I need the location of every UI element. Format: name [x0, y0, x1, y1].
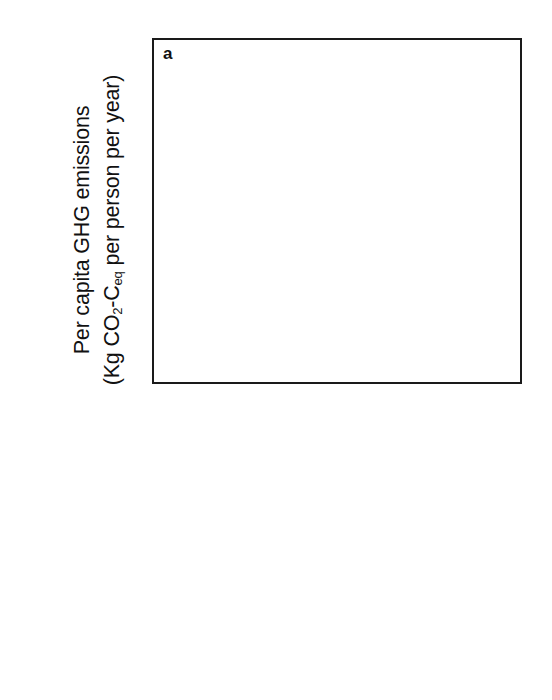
stacked-bar-chart-figure: Per capita GHG emissions (Kg CO2-Ceq per…: [0, 0, 552, 700]
y-axis-tick-labels: [96, 0, 148, 700]
panel-label: a: [163, 44, 172, 64]
plot-area: [152, 38, 522, 384]
y-axis-title-line1: Per capita GHG emissions: [67, 35, 97, 425]
